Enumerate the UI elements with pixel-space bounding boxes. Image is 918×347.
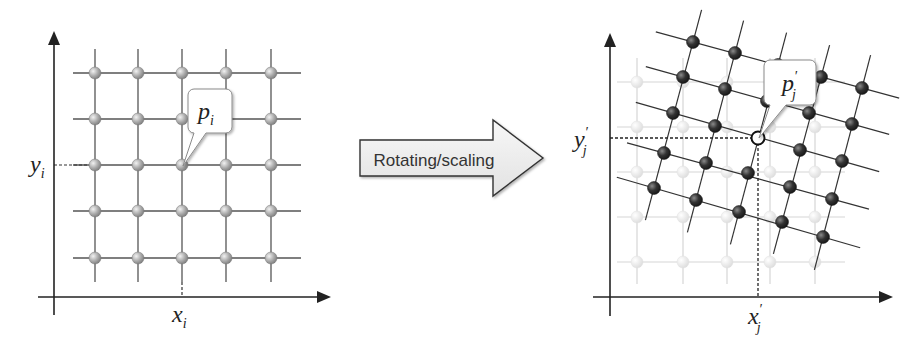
grid-point	[176, 113, 188, 125]
grid-point	[132, 205, 144, 217]
grid-point	[176, 252, 188, 264]
ghost-point	[764, 256, 776, 268]
y-axis-label-sub: i	[41, 166, 45, 181]
grid-point	[265, 205, 277, 217]
transformed-point	[709, 120, 722, 133]
y-axis-label-prime: ′	[585, 125, 589, 140]
x-axis-arrowhead-icon	[317, 291, 331, 303]
transformed-point	[742, 167, 755, 180]
transformed-point	[700, 157, 713, 170]
grid-point	[265, 67, 277, 79]
transformed-point	[677, 71, 690, 84]
transformed-point	[784, 181, 797, 194]
grid-point	[132, 67, 144, 79]
transformed-point	[658, 147, 671, 160]
grid-point	[89, 205, 101, 217]
y-axis-arrowhead-icon	[48, 31, 60, 45]
transformed-point	[856, 82, 869, 95]
transformed-point	[719, 83, 732, 96]
transformed-point	[776, 216, 789, 229]
ghost-point	[631, 76, 643, 88]
ghost-point	[721, 256, 733, 268]
transform-label: Rotating/scaling	[374, 151, 495, 170]
grid-point	[220, 205, 232, 217]
ghost-point	[631, 256, 643, 268]
svg-text:yi: yi	[28, 151, 45, 181]
transformed-point	[826, 193, 839, 206]
grid-point	[89, 113, 101, 125]
transformed-point	[803, 107, 816, 120]
ghost-point	[631, 211, 643, 223]
coordinate-guide-dashes	[54, 165, 182, 297]
ghost-point	[764, 166, 776, 178]
ghost-point	[721, 211, 733, 223]
ghost-point	[809, 121, 821, 133]
transformed-point	[667, 107, 680, 120]
transformed-point	[836, 155, 849, 168]
grid-point	[89, 159, 101, 171]
ghost-point	[677, 121, 689, 133]
ghost-point	[677, 256, 689, 268]
ghost-point	[809, 166, 821, 178]
transformed-point	[817, 231, 830, 244]
transformed-point	[648, 182, 661, 195]
point-label-sub: i	[210, 113, 214, 128]
grid-point	[89, 67, 101, 79]
transformed-point	[733, 206, 746, 219]
transformed-point	[794, 144, 807, 157]
x-axis-label-sub: i	[183, 316, 187, 331]
y-axis-label: y	[28, 151, 41, 177]
grid-point	[89, 252, 101, 264]
point-label-p: p	[196, 98, 210, 124]
transformed-grid-panel: p′j y′j x′j	[572, 10, 899, 335]
transformed-point	[846, 118, 859, 131]
transformed-point	[729, 47, 742, 60]
transformed-point	[690, 194, 703, 207]
transformed-point	[687, 36, 700, 49]
ghost-point	[809, 211, 821, 223]
grid-point	[132, 252, 144, 264]
grid-point	[176, 67, 188, 79]
ghost-point	[677, 211, 689, 223]
grid-point	[265, 159, 277, 171]
rotation-scaling-diagram: pi yi xi Rotating/scaling p′j	[0, 0, 918, 347]
svg-text:y′j: y′j	[572, 125, 589, 158]
grid-point	[132, 113, 144, 125]
x-axis-label: x	[171, 301, 183, 327]
svg-text:xi: xi	[171, 301, 187, 331]
x-axis-arrowhead-icon	[879, 291, 893, 303]
grid-point	[220, 252, 232, 264]
grid-point	[265, 252, 277, 264]
ghost-point	[631, 121, 643, 133]
grid-point	[176, 205, 188, 217]
ghost-point	[631, 166, 643, 178]
x-axis-label-prime: ′	[759, 302, 763, 317]
grid-point	[220, 67, 232, 79]
y-axis-arrowhead-icon	[604, 33, 616, 47]
grid-point	[265, 113, 277, 125]
original-grid-panel: pi yi xi	[28, 31, 331, 331]
grid-point	[220, 159, 232, 171]
svg-text:x′j: x′j	[747, 302, 763, 335]
ghost-point	[677, 166, 689, 178]
grid-point	[132, 159, 144, 171]
